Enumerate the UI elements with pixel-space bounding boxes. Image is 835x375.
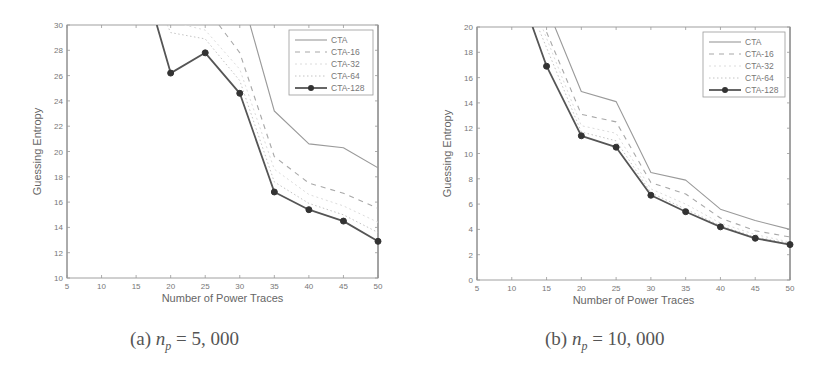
x-tick-label: 10 (507, 284, 516, 293)
y-tick-label: 0 (469, 276, 474, 285)
data-point-cta-128 (648, 192, 654, 198)
x-tick-label: 30 (235, 282, 244, 291)
y-tick-label: 18 (464, 48, 473, 57)
x-tick-label: 35 (681, 284, 690, 293)
legend-label: CTA-16 (745, 49, 774, 59)
data-point-cta-128 (717, 224, 723, 230)
data-point-cta-128 (168, 70, 174, 76)
chart-b: 510152025303540455002468101214161820Numb… (441, 23, 795, 306)
data-point-cta-128 (578, 133, 584, 139)
y-tick-label: 14 (464, 99, 473, 108)
x-tick-label: 45 (339, 282, 348, 291)
data-point-cta-128 (271, 189, 277, 195)
legend-label: CTA (745, 37, 762, 47)
x-tick-label: 15 (132, 282, 141, 291)
y-axis-label: Guessing Entropy (441, 109, 453, 197)
legend-label: CTA-128 (745, 85, 779, 95)
caption-a: (a) np = 5, 000 (130, 328, 239, 354)
legend-marker (722, 87, 728, 93)
caption-b: (b) np = 10, 000 (545, 328, 665, 354)
data-point-cta-128 (237, 90, 243, 96)
legend-label: CTA-16 (331, 47, 360, 57)
legend: CTACTA-16CTA-32CTA-64CTA-128 (289, 30, 373, 95)
x-tick-label: 25 (612, 284, 621, 293)
x-tick-label: 15 (542, 284, 551, 293)
caption-a-prefix: (a) (130, 328, 151, 349)
x-tick-label: 25 (201, 282, 210, 291)
y-tick-label: 12 (54, 249, 63, 258)
data-point-cta-128 (683, 209, 689, 215)
caption-b-value: = 10, 000 (592, 328, 664, 349)
data-point-cta-128 (787, 242, 793, 248)
x-tick-label: 5 (475, 284, 480, 293)
y-axis-label: Guessing Entropy (31, 107, 43, 195)
legend: CTACTA-16CTA-32CTA-64CTA-128 (703, 32, 785, 97)
data-point-cta-128 (544, 63, 550, 69)
data-point-cta-128 (306, 207, 312, 213)
y-tick-label: 18 (54, 173, 63, 182)
y-tick-label: 14 (54, 223, 63, 232)
y-tick-label: 30 (54, 21, 63, 30)
caption-a-sub: p (165, 339, 171, 353)
y-tick-label: 20 (54, 148, 63, 157)
legend-marker (308, 85, 314, 91)
y-tick-label: 28 (54, 46, 63, 55)
caption-b-var: n (572, 328, 582, 349)
figure-canvas: 5101520253035404550101214161820222426283… (0, 0, 835, 375)
x-tick-label: 5 (65, 282, 70, 291)
y-tick-label: 10 (54, 274, 63, 283)
data-point-cta-128 (202, 50, 208, 56)
x-tick-label: 30 (646, 284, 655, 293)
y-tick-label: 6 (469, 200, 474, 209)
y-tick-label: 16 (54, 198, 63, 207)
y-tick-label: 26 (54, 72, 63, 81)
x-tick-label: 50 (786, 284, 795, 293)
y-tick-label: 22 (54, 122, 63, 131)
x-tick-label: 10 (97, 282, 106, 291)
y-tick-label: 16 (464, 74, 473, 83)
y-tick-label: 12 (464, 124, 473, 133)
y-tick-label: 8 (469, 175, 474, 184)
x-tick-label: 35 (270, 282, 279, 291)
legend-label: CTA-32 (745, 61, 774, 71)
legend-label: CTA (331, 35, 348, 45)
data-point-cta-128 (752, 235, 758, 241)
x-tick-label: 20 (577, 284, 586, 293)
x-tick-label: 20 (166, 282, 175, 291)
legend-label: CTA-128 (331, 83, 365, 93)
legend-label: CTA-64 (331, 71, 360, 81)
y-tick-label: 10 (464, 150, 473, 159)
y-tick-label: 20 (464, 23, 473, 32)
legend-label: CTA-32 (331, 59, 360, 69)
caption-a-value: = 5, 000 (176, 328, 239, 349)
data-point-cta-128 (375, 238, 381, 244)
x-tick-label: 50 (374, 282, 383, 291)
caption-b-sub: p (581, 339, 587, 353)
legend-label: CTA-64 (745, 73, 774, 83)
x-axis-label: Number of Power Traces (162, 292, 284, 304)
chart-a: 5101520253035404550101214161820222426283… (31, 21, 383, 304)
y-tick-label: 24 (54, 97, 63, 106)
x-tick-label: 40 (716, 284, 725, 293)
y-tick-label: 4 (469, 225, 474, 234)
x-axis-label: Number of Power Traces (573, 294, 695, 306)
caption-b-prefix: (b) (545, 328, 567, 349)
data-point-cta-128 (340, 218, 346, 224)
y-tick-label: 2 (469, 251, 474, 260)
data-point-cta-128 (613, 144, 619, 150)
caption-a-var: n (156, 328, 166, 349)
x-tick-label: 45 (751, 284, 760, 293)
x-tick-label: 40 (304, 282, 313, 291)
